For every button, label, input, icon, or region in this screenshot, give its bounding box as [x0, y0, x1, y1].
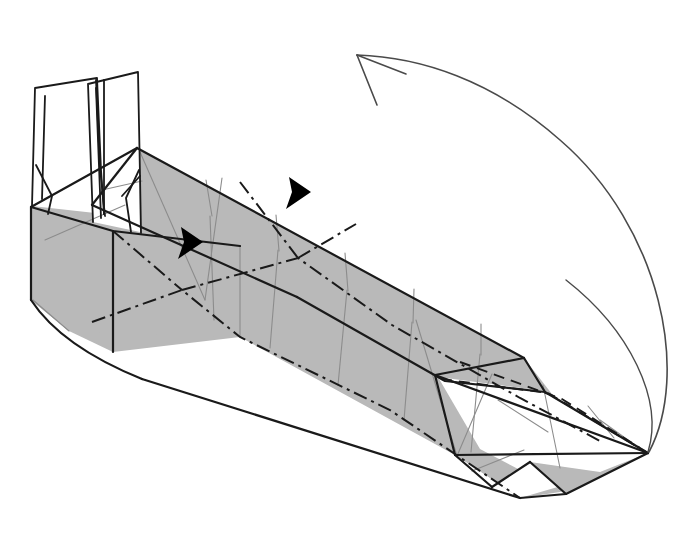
black-arrowhead-upper-icon — [286, 177, 311, 209]
origami-figure — [0, 0, 689, 547]
fold-arrow-head-wing-b — [357, 55, 377, 105]
diagram-canvas — [0, 0, 689, 547]
fold-arrow-head-wing-a — [357, 55, 406, 74]
